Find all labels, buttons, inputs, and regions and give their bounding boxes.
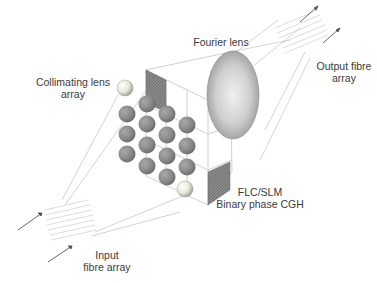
output-fibre-array xyxy=(275,10,328,53)
label-collimating-lens-array: Collimating lens array xyxy=(28,76,118,100)
label-output-fibre-array: Output fibre array xyxy=(312,60,376,84)
input-fibre-array xyxy=(45,200,96,240)
label-flc-slm: FLC/SLM Binary phase CGH xyxy=(205,186,315,210)
label-input-fibre-array: Input fibre array xyxy=(72,249,142,273)
optical-switch-diagram: Fourier lens Collimating lens array Outp… xyxy=(0,0,377,283)
label-fourier-lens: Fourier lens xyxy=(176,36,266,48)
fourier-lens-shape xyxy=(207,51,259,139)
output-fibre-arrows xyxy=(300,6,340,43)
